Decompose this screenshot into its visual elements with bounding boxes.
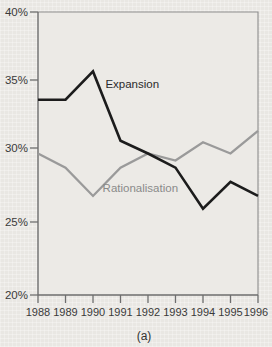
- line-chart: 40% 35% 30% 25% 20% 1988 1989 1990 1991 …: [0, 0, 272, 347]
- x-tick-label-1992: 1992: [136, 306, 160, 318]
- y-tick-label-35: 35%: [5, 74, 28, 86]
- figure-panel: 40% 35% 30% 25% 20% 1988 1989 1990 1991 …: [0, 0, 272, 347]
- x-tick-label-1994: 1994: [191, 306, 215, 318]
- figure-caption: (a): [137, 329, 152, 343]
- y-tick-label-30: 30%: [5, 142, 28, 154]
- series-label-expansion: Expansion: [105, 78, 159, 90]
- x-tick-label-1989: 1989: [53, 306, 77, 318]
- y-axis-labels: 40% 35% 30% 25% 20%: [5, 6, 28, 301]
- x-axis-ticks: [38, 295, 258, 303]
- series-label-rationalisation: Rationalisation: [103, 182, 178, 194]
- y-tick-label-40: 40%: [5, 6, 28, 18]
- y-tick-label-20: 20%: [5, 289, 28, 301]
- y-tick-label-25: 25%: [5, 216, 28, 228]
- x-axis-labels: 1988 1989 1990 1991 1992 1993 1994 1995 …: [26, 306, 268, 318]
- x-tick-label-1996: 1996: [244, 306, 268, 318]
- x-tick-label-1995: 1995: [218, 306, 242, 318]
- x-tick-label-1993: 1993: [163, 306, 187, 318]
- x-tick-label-1990: 1990: [81, 306, 105, 318]
- x-tick-label-1988: 1988: [26, 306, 50, 318]
- y-axis-ticks: [30, 12, 38, 295]
- x-tick-label-1991: 1991: [108, 306, 132, 318]
